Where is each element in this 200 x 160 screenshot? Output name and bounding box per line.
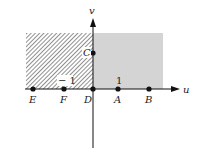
point-D bbox=[90, 86, 95, 91]
tick-label-one: 1 bbox=[116, 75, 122, 86]
gray-region bbox=[93, 33, 163, 89]
point-label-E: E bbox=[28, 94, 37, 105]
point-C bbox=[90, 50, 95, 55]
point-E bbox=[30, 86, 35, 91]
u-axis-label: u bbox=[183, 84, 189, 95]
point-B bbox=[146, 86, 151, 91]
u-axis-arrow-icon bbox=[171, 86, 180, 92]
v-axis-arrow-icon bbox=[90, 18, 96, 27]
point-A bbox=[115, 86, 120, 91]
point-label-A: A bbox=[113, 94, 121, 105]
tick-label-neg-one: − 1 bbox=[58, 75, 76, 86]
point-label-D: D bbox=[83, 94, 92, 105]
point-label-B: B bbox=[144, 94, 152, 105]
point-label-F: F bbox=[59, 94, 68, 105]
v-axis-label: v bbox=[89, 5, 95, 16]
point-F bbox=[61, 86, 66, 91]
point-label-C: C bbox=[83, 47, 91, 58]
uv-plane-diagram: v u − 1 1 E F D A B C bbox=[0, 0, 200, 160]
